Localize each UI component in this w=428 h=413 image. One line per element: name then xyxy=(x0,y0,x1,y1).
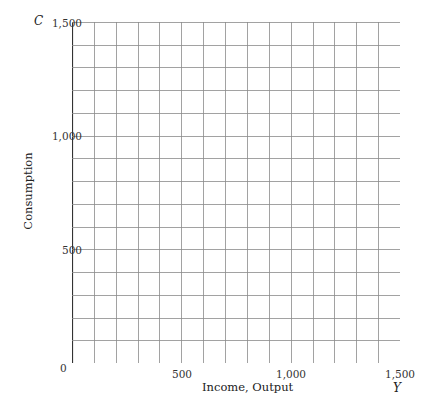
y-tick-1500: 1,500 xyxy=(52,17,82,29)
grid xyxy=(72,22,400,363)
y-tick-1000: 1,000 xyxy=(52,130,82,142)
x-tick-1000: 1,000 xyxy=(276,368,306,380)
x-axis-label: Income, Output xyxy=(202,380,293,394)
x-tick-1500: 1,500 xyxy=(385,368,415,380)
y-tick-500: 500 xyxy=(62,244,82,256)
y-axis-label: Consumption xyxy=(21,151,35,231)
x-tick-500: 500 xyxy=(172,368,192,380)
y-axis-symbol: C xyxy=(34,14,43,28)
origin-tick: 0 xyxy=(60,362,67,374)
x-axis-symbol: Y xyxy=(393,381,401,395)
plot-area xyxy=(72,22,400,363)
